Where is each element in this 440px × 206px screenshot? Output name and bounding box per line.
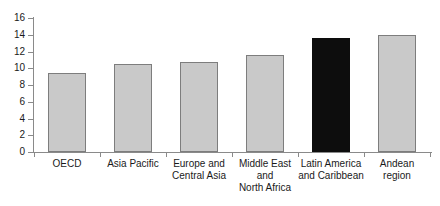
bar xyxy=(378,35,416,152)
bar xyxy=(48,73,86,152)
bar xyxy=(312,38,350,152)
y-axis-tick-label: 0 xyxy=(0,147,25,157)
x-axis-category-label: Latin America and Caribbean xyxy=(295,158,367,182)
x-axis-category-label: Middle East and North Africa xyxy=(229,158,301,194)
x-axis-tick xyxy=(100,152,101,157)
x-axis-tick xyxy=(34,152,35,157)
bar-chart: 0246810121416 OECDAsia PacificEurope and… xyxy=(0,0,440,206)
x-axis-tick xyxy=(166,152,167,157)
y-axis-tick-label: 6 xyxy=(0,97,25,107)
x-axis-tick xyxy=(298,152,299,157)
bar xyxy=(246,55,284,152)
y-axis-tick-label: 4 xyxy=(0,114,25,124)
x-axis-category-label: Andean region xyxy=(361,158,433,182)
bars-layer xyxy=(34,18,430,152)
y-axis-tick-label: 8 xyxy=(0,80,25,90)
x-axis-tick xyxy=(232,152,233,157)
x-axis-category-label: OECD xyxy=(31,158,103,170)
y-axis-tick-label: 14 xyxy=(0,30,25,40)
y-axis-tick-label: 12 xyxy=(0,47,25,57)
x-axis-tick xyxy=(430,152,431,157)
bar xyxy=(180,62,218,152)
y-axis-tick-label: 16 xyxy=(0,13,25,23)
x-axis-tick xyxy=(364,152,365,157)
x-axis-category-label: Europe and Central Asia xyxy=(163,158,235,182)
y-axis-tick-label: 10 xyxy=(0,63,25,73)
y-axis-tick-label: 2 xyxy=(0,130,25,140)
bar xyxy=(114,64,152,152)
x-axis-category-label: Asia Pacific xyxy=(97,158,169,170)
